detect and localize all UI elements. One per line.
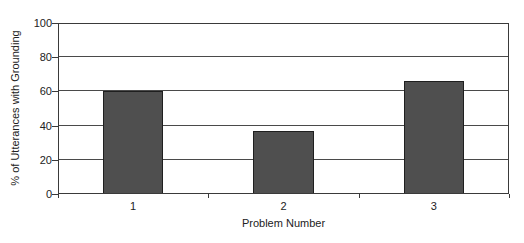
x-axis-title: Problem Number bbox=[58, 217, 509, 229]
y-tick-label: 100 bbox=[0, 17, 52, 29]
plot-area bbox=[58, 23, 509, 194]
y-tick-label: 40 bbox=[0, 120, 52, 132]
y-tick-label: 80 bbox=[0, 51, 52, 63]
y-tick-mark bbox=[52, 160, 58, 161]
y-tick-mark bbox=[52, 23, 58, 24]
y-tick-mark bbox=[52, 57, 58, 58]
y-tick-label: 60 bbox=[0, 85, 52, 97]
gridline bbox=[58, 56, 509, 57]
x-tick-mark bbox=[58, 194, 59, 198]
bar-problem-2 bbox=[253, 131, 313, 194]
y-tick-mark bbox=[52, 126, 58, 127]
y-tick-mark bbox=[52, 91, 58, 92]
bar-problem-3 bbox=[404, 81, 464, 194]
x-tick-label: 1 bbox=[93, 200, 173, 212]
x-tick-mark bbox=[509, 194, 510, 198]
bar-problem-1 bbox=[103, 91, 163, 194]
y-tick-label: 20 bbox=[0, 154, 52, 166]
x-tick-mark bbox=[208, 194, 209, 198]
x-tick-mark bbox=[359, 194, 360, 198]
bar-chart-figure: % of Utterances with Grounding Problem N… bbox=[0, 0, 524, 243]
x-tick-label: 2 bbox=[244, 200, 324, 212]
x-tick-label: 3 bbox=[394, 200, 474, 212]
y-tick-label: 0 bbox=[0, 188, 52, 200]
